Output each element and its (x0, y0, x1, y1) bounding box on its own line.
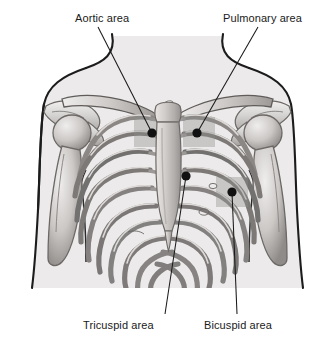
marker-bicuspid (227, 187, 236, 196)
marker-aortic (147, 128, 156, 137)
label-tricuspid-area: Tricuspid area (83, 319, 154, 331)
label-bicuspid-area: Bicuspid area (204, 319, 272, 331)
label-pulmonary-area: Pulmonary area (223, 12, 302, 24)
sternum-manubrium (155, 102, 181, 122)
marker-tricuspid (181, 171, 190, 180)
marker-pulmonary (192, 128, 201, 137)
label-aortic-area: Aortic area (75, 12, 129, 24)
thorax-auscultation-diagram (0, 0, 335, 341)
